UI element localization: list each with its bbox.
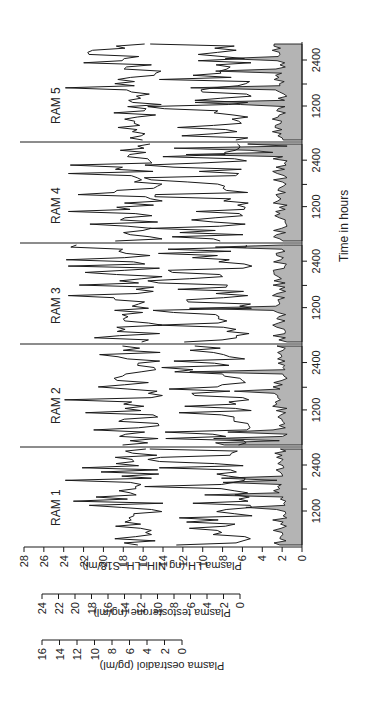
x-axis-label: Time in hours [337, 190, 351, 262]
testosterone-tick-label: 24 [36, 602, 48, 614]
plot-area [65, 44, 302, 545]
oestradiol-axis-label: Plasma oestradiol (pg/ml) [100, 660, 225, 672]
lh-tick-label: 4 [256, 555, 268, 561]
panel-label-ram1: RAM 1 [49, 489, 63, 526]
oestradiol-area [205, 449, 302, 545]
time-tick-label: 2400 [310, 249, 322, 273]
oestradiol-tick-label: 6 [124, 648, 136, 654]
testosterone-tick-label: 0 [234, 602, 246, 608]
testosterone-tick-label: 22 [53, 602, 65, 614]
testosterone-tick-label: 20 [69, 602, 81, 614]
oestradiol-tick-label: 12 [71, 648, 83, 660]
lh-tick-label: 26 [38, 555, 50, 567]
testosterone-line [145, 449, 252, 545]
oestradiol-area [190, 245, 303, 342]
rotated-figure: 0246810121416182022242628024681012141618… [0, 0, 366, 702]
lh-line [65, 449, 163, 545]
lh-tick-label: 28 [18, 555, 30, 567]
lh-axis-label: Plasma LH (ng NIH−LH−S18/ml) [82, 560, 242, 572]
time-tick-label: 1200 [310, 499, 322, 523]
lh-line [66, 245, 162, 342]
lh-line [65, 44, 161, 140]
time-tick-label: 2400 [310, 148, 322, 172]
oestradiol-tick-label: 2 [159, 648, 171, 654]
testosterone-axis-label: Plasma testosterone (ng/ml) [93, 607, 231, 619]
time-tick-label: 1200 [310, 194, 322, 218]
lh-tick-label: 0 [296, 555, 308, 561]
testosterone-line [148, 245, 252, 342]
oestradiol-tick-label: 4 [141, 648, 153, 654]
lh-line [65, 346, 163, 445]
oestradiol-tick-label: 10 [89, 648, 101, 660]
panel-label-ram4: RAM 4 [49, 187, 63, 224]
time-tick-label: 2400 [310, 350, 322, 374]
time-tick-label: 2400 [310, 48, 322, 72]
time-tick-label: 1200 [310, 398, 322, 422]
oestradiol-tick-label: 8 [106, 648, 118, 654]
oestradiol-tick-label: 16 [36, 648, 48, 660]
lh-tick-label: 2 [276, 555, 288, 561]
lh-tick-label: 24 [58, 555, 70, 567]
time-tick-label: 1200 [310, 94, 322, 118]
oestradiol-tick-label: 0 [176, 648, 188, 654]
panel-label-ram3: RAM 3 [49, 287, 63, 324]
time-tick-label: 1200 [310, 295, 322, 319]
testosterone-line [162, 346, 251, 445]
panel-label-ram5: RAM 5 [49, 87, 63, 124]
oestradiol-tick-label: 14 [54, 648, 66, 660]
panel-label-ram2: RAM 2 [49, 387, 63, 424]
time-tick-label: 2400 [310, 453, 322, 477]
hormone-chart: 0246810121416182022242628024681012141618… [0, 0, 366, 702]
lh-line [68, 144, 162, 241]
testosterone-line [144, 144, 248, 241]
